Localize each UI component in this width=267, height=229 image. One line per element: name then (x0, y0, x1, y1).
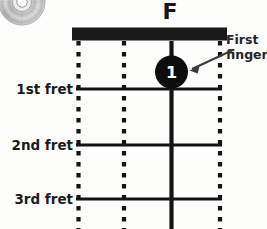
finger-dot-1-number: 1 (166, 63, 177, 82)
chord-diagram-stage: F 1st fret 2nd fret 3rd fret First finge… (0, 0, 267, 229)
callout-arrow (190, 50, 234, 74)
string-group-dotted (79, 41, 221, 229)
fretboard-svg: 1 (0, 0, 267, 229)
finger-dot-1: 1 (155, 56, 188, 89)
nut-bar (72, 28, 227, 41)
